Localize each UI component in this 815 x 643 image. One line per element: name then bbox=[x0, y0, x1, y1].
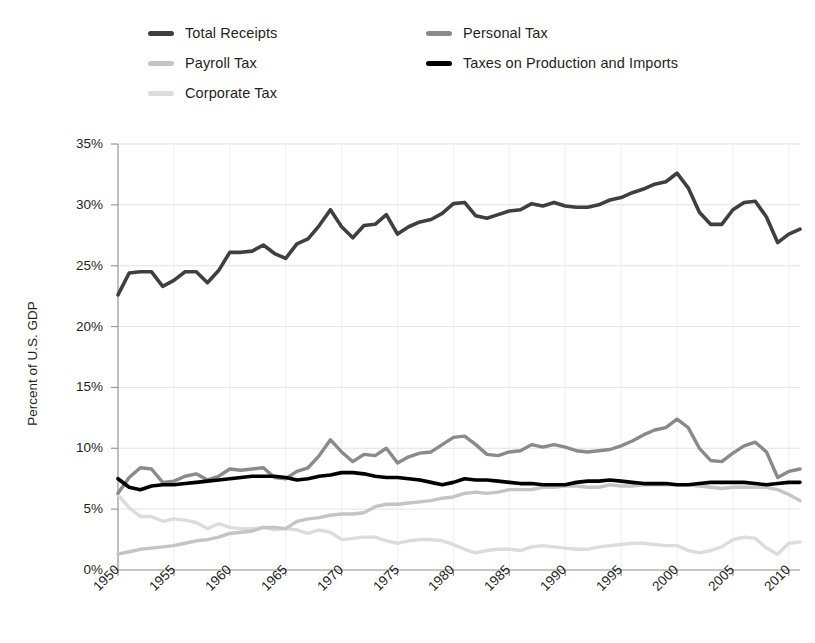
y-tick-label: 5% bbox=[57, 502, 103, 516]
series-line bbox=[118, 173, 800, 295]
y-axis-title: Percent of U.S. GDP bbox=[25, 254, 40, 474]
y-tick-label: 30% bbox=[57, 198, 103, 212]
y-tick-label: 35% bbox=[57, 137, 103, 151]
data-series bbox=[118, 173, 800, 554]
y-tick-label: 25% bbox=[57, 259, 103, 273]
line-chart-svg bbox=[0, 0, 815, 643]
y-tick-label: 20% bbox=[57, 320, 103, 334]
chart-figure: Total ReceiptsPayroll TaxCorporate TaxPe… bbox=[0, 0, 815, 643]
series-line bbox=[118, 485, 800, 554]
y-tick-label: 15% bbox=[57, 380, 103, 394]
y-tick-label: 10% bbox=[57, 441, 103, 455]
series-line bbox=[118, 495, 800, 555]
plot-area: 0%5%10%15%20%25%30%35% 19501955196019651… bbox=[0, 0, 815, 643]
y-tick-label: 0% bbox=[57, 563, 103, 577]
